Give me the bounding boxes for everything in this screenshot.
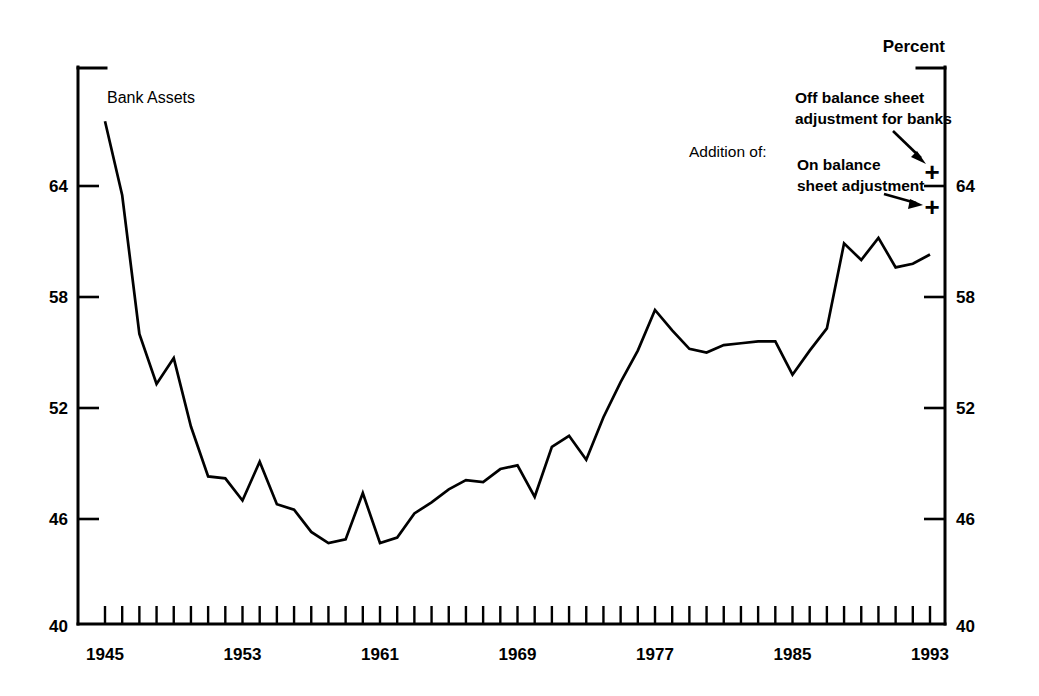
left-tick-label-46: 46 — [49, 510, 68, 529]
unit-label-percent: Percent — [883, 37, 946, 56]
right-tick-label-46: 46 — [956, 510, 975, 529]
right-tick-label-40: 40 — [956, 617, 975, 636]
bank-assets-line-chart: 64 58 52 46 40 64 58 52 46 40 1945195319… — [0, 0, 1039, 696]
x-tick-label-1953: 1953 — [224, 645, 262, 664]
left-tick-label-52: 52 — [49, 399, 68, 418]
x-tick-label-1945: 1945 — [86, 645, 124, 664]
x-tick-label-1993: 1993 — [911, 645, 949, 664]
x-tick-label-1985: 1985 — [774, 645, 812, 664]
x-tick-label-1961: 1961 — [361, 645, 399, 664]
marker-plus-on-balance: + — [924, 192, 939, 222]
annotation-addition-of: Addition of: — [689, 143, 767, 160]
x-tick-label-1969: 1969 — [499, 645, 537, 664]
annotation-off-balance-line1: Off balance sheet — [795, 89, 924, 106]
annotation-on-balance-line1: On balance — [797, 156, 881, 173]
annotation-on-balance-line2: sheet adjustment — [797, 177, 924, 194]
right-tick-label-64: 64 — [956, 177, 975, 196]
chart-figure: 64 58 52 46 40 64 58 52 46 40 1945195319… — [0, 0, 1039, 696]
left-tick-label-40: 40 — [49, 617, 68, 636]
x-tick-label-1977: 1977 — [636, 645, 674, 664]
marker-plus-off-balance: + — [924, 157, 939, 187]
right-tick-label-58: 58 — [956, 288, 975, 307]
series-label-bank-assets: Bank Assets — [107, 89, 195, 106]
left-tick-label-64: 64 — [49, 177, 68, 196]
left-tick-label-58: 58 — [49, 288, 68, 307]
annotation-off-balance-line2: adjustment for banks — [795, 110, 952, 127]
right-tick-label-52: 52 — [956, 399, 975, 418]
